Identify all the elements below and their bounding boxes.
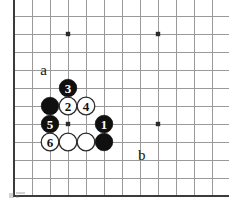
stone-move-number: 3 (65, 81, 72, 96)
stone-black-1[interactable]: 1 (95, 115, 113, 133)
stone-move-number: 1 (101, 117, 108, 132)
caption-artifact-icon (8, 191, 30, 199)
stone-move-number: 4 (83, 99, 90, 114)
stone-white-plain-a[interactable] (59, 133, 77, 151)
stone-white-2[interactable]: 2 (59, 97, 77, 115)
white-stone-icon (77, 133, 95, 151)
stone-black-plain-lower[interactable] (95, 133, 113, 151)
stone-white-6[interactable]: 6 (41, 133, 59, 151)
board-edges (13, 0, 229, 196)
label-b: b (138, 147, 146, 163)
star-point-lower-left (66, 122, 70, 126)
stone-black-plain-upper[interactable] (41, 97, 59, 115)
stone-move-number: 5 (47, 117, 54, 132)
stones-layer[interactable]: 324516 (41, 79, 113, 151)
label-a: a (40, 62, 47, 78)
star-point-lower-right (156, 122, 160, 126)
white-stone-icon (59, 133, 77, 151)
stone-move-number: 6 (47, 135, 54, 150)
stone-white-4[interactable]: 4 (77, 97, 95, 115)
stone-black-5[interactable]: 5 (41, 115, 59, 133)
star-point-upper-left (66, 32, 70, 36)
stone-white-plain-b[interactable] (77, 133, 95, 151)
go-board-canvas[interactable]: ab 324516 (0, 0, 229, 203)
black-stone-icon (41, 97, 59, 115)
stone-move-number: 2 (65, 99, 72, 114)
go-board-figure: ab 324516 (0, 0, 229, 203)
stone-black-3[interactable]: 3 (59, 79, 77, 97)
black-stone-icon (95, 133, 113, 151)
star-point-upper-right (156, 32, 160, 36)
